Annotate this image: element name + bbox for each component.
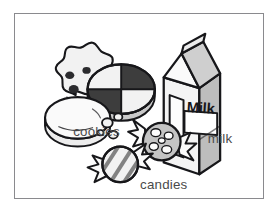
- label-milk: milk: [208, 131, 233, 146]
- label-cookies: cookies: [73, 124, 120, 139]
- label-candies: candies: [140, 177, 188, 192]
- illustration-frame: cookies Milk milk: [14, 13, 264, 199]
- illustration-canvas: cookies Milk milk: [15, 14, 263, 198]
- milk-package-text: Milk: [186, 99, 216, 117]
- plain-oval-cookie: [45, 97, 110, 146]
